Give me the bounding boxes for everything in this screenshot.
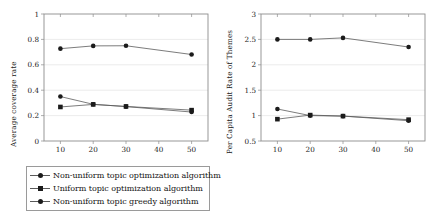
legend-item-label: Uniform topic optimization algorithm [53, 184, 203, 193]
x-axis-tick-label: 30 [121, 145, 131, 154]
legend-item-label: Non-uniform topic greedy algorithm [53, 197, 199, 206]
y-axis-tick-label: 0.2 [28, 111, 39, 120]
line-chart-per-capita-audit-rate: 0.511.522.531020304050 [217, 0, 433, 165]
y-axis-tick-label: 0.4 [28, 86, 40, 95]
data-point-marker [189, 110, 194, 115]
data-point-marker [406, 45, 411, 50]
y-axis-tick-label: 0.8 [28, 35, 40, 44]
data-point-marker [341, 36, 346, 41]
legend-item[interactable]: Non-uniform topic optimization algorithm [30, 169, 205, 182]
y-axis-tick-label: 1.5 [245, 86, 257, 95]
x-axis-tick-label: 40 [371, 145, 381, 154]
plot-frame [44, 14, 208, 141]
data-point-marker [341, 114, 346, 119]
legend-item[interactable]: Uniform topic optimization algorithm [30, 182, 205, 195]
x-axis-tick-label: 20 [306, 145, 316, 154]
plot-frame [261, 14, 425, 141]
data-point-marker [189, 52, 194, 57]
data-point-marker [91, 102, 96, 107]
data-point-marker [124, 104, 129, 109]
legend-marker-square-icon [30, 184, 50, 193]
data-point-marker [308, 37, 313, 42]
data-point-marker [124, 43, 129, 48]
data-point-marker [91, 44, 96, 49]
x-axis-tick-label: 30 [338, 145, 348, 154]
y-axis-tick-label: 0.5 [245, 137, 257, 146]
data-point-marker [275, 37, 280, 42]
data-point-marker [406, 118, 411, 123]
legend-marker-circle-icon [30, 171, 50, 180]
y-axis-tick-label: 1 [251, 111, 256, 120]
data-point-marker [58, 94, 63, 99]
y-axis-tick-label: 1 [34, 10, 39, 19]
legend-item-label: Non-uniform topic optimization algorithm [53, 171, 221, 180]
legend-marker-circle-icon [30, 197, 50, 206]
y-axis-tick-label: 0 [34, 137, 39, 146]
data-point-marker [308, 113, 313, 118]
x-axis-tick-label: 50 [404, 145, 414, 154]
y-axis-tick-label: 2 [251, 60, 256, 69]
data-point-marker [58, 105, 63, 110]
x-axis-tick-label: 40 [154, 145, 164, 154]
y-axis-tick-label: 3 [251, 10, 256, 19]
x-axis-tick-label: 10 [56, 145, 66, 154]
data-point-marker [275, 107, 280, 112]
chart-panel-left: 00.20.40.60.811020304050 Average coverag… [0, 0, 216, 213]
figure-container: 00.20.40.60.811020304050 Average coverag… [0, 0, 433, 213]
y-axis-tick-label: 0.6 [28, 60, 40, 69]
legend-item[interactable]: Non-uniform topic greedy algorithm [30, 195, 205, 208]
line-chart-average-coverage-rate: 00.20.40.60.811020304050 [0, 0, 216, 165]
x-axis-tick-label: 20 [89, 145, 99, 154]
chart-panel-right: 0.511.522.531020304050 Per Capita Audit … [217, 0, 433, 213]
y-axis-label-right: Per Capita Audit Rate of Themes [225, 30, 234, 154]
data-point-marker [275, 117, 280, 122]
x-axis-tick-label: 10 [273, 145, 283, 154]
data-point-marker [58, 46, 63, 51]
legend-left: Non-uniform topic optimization algorithm… [26, 166, 210, 211]
y-axis-tick-label: 2.5 [245, 35, 257, 44]
y-axis-label-left: Average coverage rate [9, 61, 18, 147]
x-axis-tick-label: 50 [187, 145, 197, 154]
